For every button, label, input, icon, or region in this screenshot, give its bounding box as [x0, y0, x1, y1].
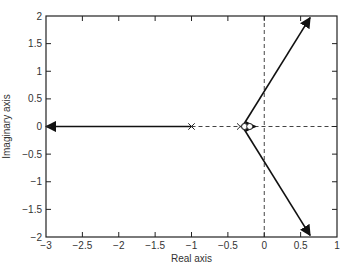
y-tick-label: 0: [36, 121, 42, 132]
x-tick-label: 0: [261, 240, 267, 251]
y-axis-label: Imaginary axis: [1, 94, 12, 158]
x-tick-label: −3: [40, 240, 52, 251]
y-tick-label: 0.5: [28, 93, 42, 104]
x-tick-label: 0.5: [294, 240, 308, 251]
y-tick-label: −1: [31, 176, 43, 187]
x-tick-label: −2.5: [73, 240, 93, 251]
x-axis-label: Real axis: [171, 253, 212, 264]
y-tick-label: −0.5: [22, 149, 42, 160]
root-locus-plot: −3−2.5−2−1.5−1−0.500.5121.510.50−0.5−1−1…: [0, 0, 349, 273]
zero-marker: [247, 124, 253, 130]
lower-branch: [242, 127, 310, 236]
x-tick-label: 1: [334, 240, 340, 251]
y-tick-label: −1.5: [22, 204, 42, 215]
x-tick-label: −2: [113, 240, 125, 251]
x-tick-label: −1.5: [145, 240, 165, 251]
x-tick-label: −0.5: [218, 240, 238, 251]
upper-branch: [242, 18, 310, 127]
y-tick-label: −2: [31, 232, 43, 243]
x-tick-label: −1: [186, 240, 198, 251]
y-tick-label: 1: [36, 66, 42, 77]
y-tick-label: 2: [36, 11, 42, 22]
y-tick-label: 1.5: [28, 38, 42, 49]
